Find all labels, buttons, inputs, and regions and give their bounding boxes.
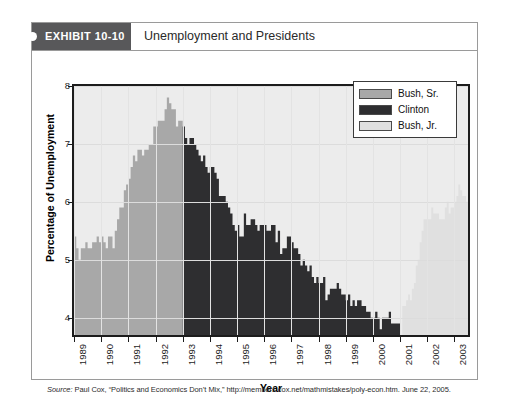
legend-item: Bush, Jr. [359, 118, 451, 133]
x-axis-tick-mark [264, 337, 265, 342]
y-axis-tick-mark [68, 260, 72, 261]
vertical-gridline [210, 86, 211, 335]
x-axis-tick-label: 1995 [241, 344, 251, 384]
horizontal-gridline [74, 202, 468, 203]
x-axis-tick-label: 1999 [350, 344, 360, 384]
x-axis-tick-mark [427, 337, 428, 342]
horizontal-gridline [74, 318, 468, 319]
vertical-gridline [264, 86, 265, 335]
y-axis-ticks: 45678 [48, 51, 70, 380]
vertical-gridline [183, 86, 184, 335]
exhibit-frame: EXHIBIT 10-10 Unemployment and President… [31, 22, 478, 380]
vertical-gridline [101, 86, 102, 335]
x-axis-tick-label: 1997 [295, 344, 305, 384]
exhibit-notch-decoration [28, 32, 37, 41]
legend-item-label: Bush, Sr. [398, 89, 439, 99]
x-axis-tick-mark [237, 337, 238, 342]
vertical-gridline [291, 86, 292, 335]
vertical-gridline [346, 86, 347, 335]
exhibit-header: EXHIBIT 10-10 Unemployment and President… [32, 23, 477, 51]
x-axis-tick-label: 1990 [105, 344, 115, 384]
x-axis-tick-label: 1993 [187, 344, 197, 384]
horizontal-gridline [74, 144, 468, 145]
x-axis-tick-label: 1992 [160, 344, 170, 384]
legend-item: Clinton [359, 102, 451, 117]
legend-swatch-icon [359, 89, 392, 99]
x-axis-tick-label: 2002 [431, 344, 441, 384]
vertical-gridline [237, 86, 238, 335]
x-axis-tick-label: 1989 [78, 344, 88, 384]
x-axis-tick-mark [373, 337, 374, 342]
horizontal-gridline [74, 260, 468, 261]
vertical-gridline [319, 86, 320, 335]
x-axis-tick-label: 1996 [268, 344, 278, 384]
x-axis-tick-label: 1991 [132, 344, 142, 384]
legend-swatch-icon [359, 121, 392, 131]
y-axis-tick-mark [68, 144, 72, 145]
vertical-gridline [128, 86, 129, 335]
x-axis-tick-label: 1994 [214, 344, 224, 384]
x-axis-tick-label: 2000 [377, 344, 387, 384]
y-axis-tick-mark [68, 86, 72, 87]
legend-swatch-icon [359, 105, 392, 115]
x-axis-tick-mark [291, 337, 292, 342]
legend-item-label: Clinton [398, 105, 429, 115]
chart-legend: Bush, Sr.ClintonBush, Jr. [353, 81, 457, 138]
chart-body: Percentage of Unemployment 45678 Year Bu… [32, 51, 477, 380]
x-axis-tick-label: 2001 [404, 344, 414, 384]
x-axis-tick-mark [210, 337, 211, 342]
x-axis-tick-mark [156, 337, 157, 342]
legend-item: Bush, Sr. [359, 86, 451, 101]
x-axis-tick-mark [346, 337, 347, 342]
source-label: Source: [47, 385, 73, 394]
x-axis-tick-label: 2003 [458, 344, 468, 384]
x-axis-tick-mark [183, 337, 184, 342]
y-axis-tick-mark [68, 318, 72, 319]
exhibit-tag: EXHIBIT 10-10 [32, 23, 131, 50]
x-axis-tick-mark [319, 337, 320, 342]
source-note: Source: Paul Cox, “Politics and Economic… [47, 385, 467, 394]
x-axis-tick-label: 1998 [323, 344, 333, 384]
vertical-gridline [74, 86, 75, 335]
exhibit-title: Unemployment and Presidents [144, 23, 315, 50]
y-axis-tick-mark [68, 202, 72, 203]
x-axis-tick-mark [74, 337, 75, 342]
x-axis-tick-mark [400, 337, 401, 342]
source-text: Paul Cox, “Politics and Economics Don’t … [73, 385, 451, 394]
x-axis-tick-mark [454, 337, 455, 342]
vertical-gridline [156, 86, 157, 335]
x-axis-tick-mark [128, 337, 129, 342]
legend-item-label: Bush, Jr. [398, 121, 437, 131]
x-axis-tick-mark [101, 337, 102, 342]
